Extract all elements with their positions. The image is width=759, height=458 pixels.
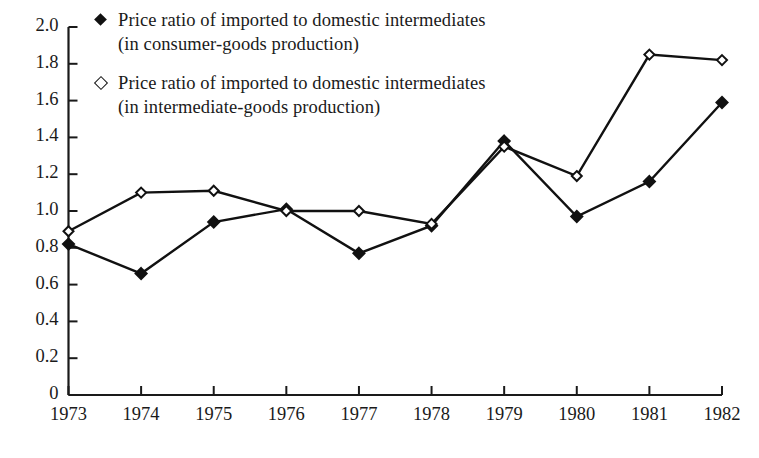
legend-label-line2: (in consumer-goods production) <box>118 32 486 56</box>
legend-label-line2: (in intermediate-goods production) <box>118 95 486 119</box>
x-axis-tick-label: 1978 <box>397 404 467 425</box>
y-axis-tick-label: 0.4 <box>0 309 59 330</box>
open-diamond-marker <box>717 55 727 65</box>
open-diamond-marker <box>136 188 146 198</box>
x-axis-tick-label: 1980 <box>542 404 612 425</box>
x-axis-tick-label: 1973 <box>34 404 104 425</box>
y-axis-tick-label: 0.6 <box>0 273 59 294</box>
y-axis-tick-label: 1.4 <box>0 125 59 146</box>
price-ratio-line-chart: Price ratio of imported to domestic inte… <box>0 0 759 458</box>
y-axis-tick-label: 2.0 <box>0 15 59 36</box>
y-axis-tick-label: 1.0 <box>0 199 59 220</box>
x-axis-ticks <box>69 386 723 395</box>
open-diamond-icon <box>96 71 118 88</box>
legend-label-line1: Price ratio of imported to domestic inte… <box>118 73 486 93</box>
x-axis-tick-label: 1974 <box>106 404 176 425</box>
open-diamond-marker <box>64 226 74 236</box>
chart-legend: Price ratio of imported to domestic inte… <box>96 8 696 134</box>
legend-label-line1: Price ratio of imported to domestic inte… <box>118 10 486 30</box>
x-axis-tick-label: 1977 <box>324 404 394 425</box>
y-axis-tick-label: 1.2 <box>0 162 59 183</box>
y-axis-ticks <box>69 27 78 395</box>
legend-entry-consumer-goods: Price ratio of imported to domestic inte… <box>96 8 696 57</box>
legend-label-intermediate-goods: Price ratio of imported to domestic inte… <box>118 71 486 120</box>
x-axis-tick-label: 1975 <box>179 404 249 425</box>
legend-label-consumer-goods: Price ratio of imported to domestic inte… <box>118 8 486 57</box>
x-axis-tick-label: 1976 <box>251 404 321 425</box>
filled-diamond-marker <box>354 248 365 259</box>
y-axis-tick-label: 1.6 <box>0 89 59 110</box>
open-diamond-marker <box>354 206 364 216</box>
y-axis-tick-label: 0 <box>0 383 59 404</box>
filled-diamond-icon <box>96 8 118 24</box>
y-axis-tick-label: 1.8 <box>0 52 59 73</box>
y-axis-tick-label: 0.8 <box>0 236 59 257</box>
y-axis-tick-label: 0.2 <box>0 346 59 367</box>
open-diamond-marker <box>209 186 219 196</box>
x-axis-tick-label: 1981 <box>614 404 684 425</box>
open-diamond-marker <box>572 171 582 181</box>
x-axis-tick-label: 1979 <box>469 404 539 425</box>
legend-entry-intermediate-goods: Price ratio of imported to domestic inte… <box>96 71 696 120</box>
x-axis-tick-label: 1982 <box>687 404 757 425</box>
